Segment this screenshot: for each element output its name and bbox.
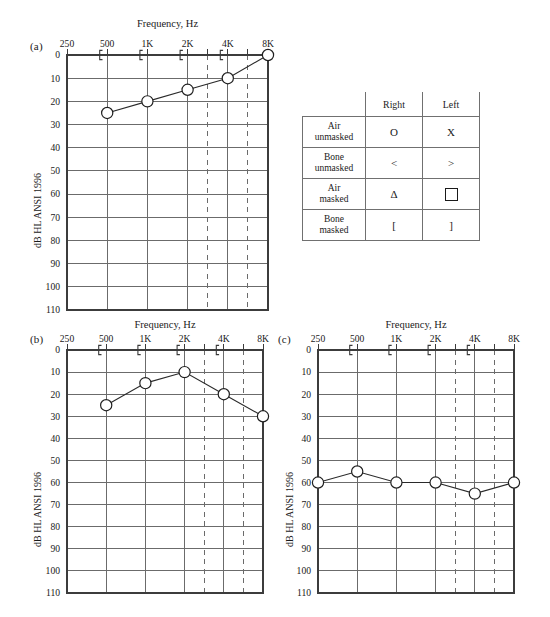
panel-a-plot: 01020304050607080901001102505001K2K4K8K (0, 30, 280, 330)
legend-row-bone-masked: Bone masked [ ] (303, 210, 480, 241)
legend-label-line1: Air (303, 121, 365, 132)
air-unmasked-right-marker (257, 411, 268, 422)
y-tick-label: 50 (50, 455, 60, 466)
y-tick-label: 60 (50, 477, 60, 488)
air-unmasked-right-marker (102, 107, 113, 118)
y-tick-label: 30 (50, 411, 60, 422)
air-unmasked-right-marker (352, 466, 363, 477)
x-tick-label: 500 (99, 333, 114, 344)
y-tick-label: 10 (301, 366, 311, 377)
legend-symbol-right-air-masked: Δ (366, 179, 423, 210)
y-tick-label: 20 (50, 96, 60, 107)
x-tick-label: 500 (350, 333, 365, 344)
air-unmasked-right-marker (469, 488, 480, 499)
legend-symbol-left-air-unmasked: X (423, 117, 480, 148)
air-unmasked-right-marker (312, 477, 323, 488)
x-tick-label: 1K (142, 38, 154, 49)
air-unmasked-right-marker (218, 389, 229, 400)
y-tick-label: 10 (50, 366, 60, 377)
legend-row-bone-unmasked: Bone unmasked < > (303, 148, 480, 179)
legend-symbol-right-air-unmasked: O (366, 117, 423, 148)
x-tick-label: 250 (60, 38, 75, 49)
legend-header-right: Right (366, 92, 423, 117)
legend-symbol-right-bone-masked: [ (366, 210, 423, 241)
y-tick-label: 20 (50, 389, 60, 400)
legend-label-line1: Bone (303, 214, 365, 225)
y-tick-label: 30 (301, 411, 311, 422)
square-symbol (445, 188, 458, 201)
left-angle-symbol: < (391, 158, 397, 169)
y-tick-label: 20 (301, 389, 311, 400)
symbol-legend-table: Right Left Air unmasked O X Bone (302, 92, 480, 241)
y-tick-label: 30 (50, 119, 60, 130)
x-tick-label: 4K (469, 333, 481, 344)
y-tick-label: 100 (46, 281, 61, 292)
y-tick-label: 110 (297, 587, 311, 598)
x-tick-label: 500 (100, 38, 115, 49)
legend-table-body: Air unmasked O X Bone unmasked < (303, 117, 480, 241)
air-unmasked-right-marker (142, 96, 153, 107)
air-unmasked-right-marker (182, 84, 193, 95)
y-tick-label: 100 (297, 565, 312, 576)
legend-label-bone-masked: Bone masked (303, 210, 366, 241)
y-tick-label: 90 (301, 543, 311, 554)
air-unmasked-right-marker (179, 366, 190, 377)
legend-label-line2: masked (303, 225, 365, 236)
air-unmasked-right-marker (140, 378, 151, 389)
legend-label-line2: masked (303, 194, 365, 205)
legend-label-air-masked: Air masked (303, 179, 366, 210)
legend-header-left: Left (423, 92, 480, 117)
right-angle-symbol: > (448, 158, 454, 169)
x-tick-label: 250 (311, 333, 326, 344)
right-bracket-symbol: ] (449, 220, 453, 231)
air-unmasked-right-marker (391, 477, 402, 488)
x-tick-label: 2K (179, 333, 191, 344)
y-tick-label: 70 (301, 499, 311, 510)
x-tick-label: 2K (430, 333, 442, 344)
left-bracket-symbol: [ (392, 220, 396, 231)
y-tick-label: 40 (301, 433, 311, 444)
air-unmasked-right-marker (262, 49, 273, 60)
y-tick-label: 60 (301, 477, 311, 488)
legend-table-head: Right Left (303, 92, 480, 117)
audiogram-figure: (a) Frequency, Hz dB HL ANSI 1996 010203… (0, 0, 550, 617)
x-tick-label: 2K (182, 38, 194, 49)
x-tick-label: 1K (140, 333, 152, 344)
legend-corner-cell (303, 92, 366, 117)
y-tick-label: 90 (50, 543, 60, 554)
panel-b-plot: 01020304050607080901001102505001K2K4K8K (0, 325, 275, 605)
y-tick-label: 50 (301, 455, 311, 466)
legend-symbol-left-air-masked (423, 179, 480, 210)
x-tick-label: 8K (257, 333, 269, 344)
y-tick-label: 90 (50, 258, 60, 269)
legend-label-bone-unmasked: Bone unmasked (303, 148, 366, 179)
x-tick-label: 250 (60, 333, 75, 344)
legend-label-line2: unmasked (303, 163, 365, 174)
y-tick-label: 10 (50, 73, 60, 84)
legend-header-row: Right Left (303, 92, 480, 117)
legend-symbol-left-bone-unmasked: > (423, 148, 480, 179)
panel-c-plot: 01020304050607080901001102505001K2K4K8K (276, 325, 550, 605)
y-tick-label: 110 (46, 304, 60, 315)
y-tick-label: 80 (50, 521, 60, 532)
y-tick-label: 100 (46, 565, 61, 576)
circle-symbol: O (390, 127, 398, 138)
y-tick-label: 0 (306, 344, 311, 355)
y-tick-label: 80 (50, 235, 60, 246)
y-tick-label: 40 (50, 433, 60, 444)
plot-frame (67, 55, 268, 310)
y-tick-label: 50 (50, 165, 60, 176)
air-unmasked-right-marker (101, 400, 112, 411)
legend-label-line1: Bone (303, 152, 365, 163)
plot-frame (67, 350, 263, 593)
y-tick-label: 70 (50, 499, 60, 510)
legend-label-line1: Air (303, 183, 365, 194)
y-tick-label: 0 (55, 344, 60, 355)
legend-symbol-right-bone-unmasked: < (366, 148, 423, 179)
x-tick-label: 4K (222, 38, 234, 49)
x-tick-label: 4K (218, 333, 230, 344)
y-tick-label: 40 (50, 142, 60, 153)
legend-symbol-left-bone-masked: ] (423, 210, 480, 241)
air-unmasked-right-marker (222, 73, 233, 84)
y-tick-label: 60 (50, 188, 60, 199)
